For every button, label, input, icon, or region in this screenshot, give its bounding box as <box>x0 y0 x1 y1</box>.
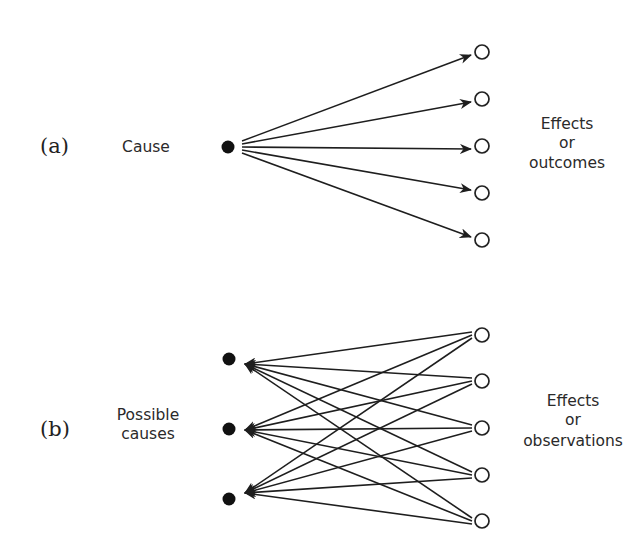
effect-circle <box>475 45 489 59</box>
effect-circle <box>475 186 489 200</box>
observations-label-line-1: Effects <box>547 392 600 410</box>
effect-nodes <box>475 45 489 247</box>
possible-cause-dot <box>223 423 236 436</box>
arrow-line <box>245 332 472 364</box>
panel-a: (a) Cause Effects or outcomes <box>40 45 605 247</box>
observation-circle <box>475 421 489 435</box>
observations-label-line-3: observations <box>523 432 623 450</box>
effect-cause-arrows <box>245 332 472 524</box>
arrow-line <box>242 55 471 141</box>
causal-diagram: (a) Cause Effects or outcomes (b) Possib… <box>0 0 644 547</box>
arrow-line <box>242 153 471 237</box>
effect-circle <box>475 139 489 153</box>
arrow-line <box>245 493 472 524</box>
arrow-line <box>245 384 472 493</box>
cause-effect-arrows <box>242 55 471 237</box>
observation-circle <box>475 328 489 342</box>
panel-b: (b) Possible causes Effects or observati… <box>40 328 623 528</box>
arrow-line <box>245 364 472 378</box>
cause-nodes <box>223 353 236 506</box>
possible-causes-label-line-2: causes <box>121 425 175 443</box>
effect-circle <box>475 92 489 106</box>
observation-nodes <box>475 328 489 528</box>
panel-a-label: (a) <box>40 134 69 158</box>
arrow-line <box>242 147 471 149</box>
arrow-line <box>245 478 472 493</box>
observation-circle <box>475 468 489 482</box>
arrow-line <box>245 430 472 475</box>
possible-cause-dot <box>223 493 236 506</box>
effects-label-line-3: outcomes <box>529 154 605 172</box>
arrow-line <box>242 150 471 190</box>
possible-cause-dot <box>223 353 236 366</box>
observation-circle <box>475 374 489 388</box>
arrow-line <box>245 430 472 521</box>
possible-causes-label-line-1: Possible <box>117 406 179 424</box>
arrow-line <box>245 364 472 472</box>
arrow-line <box>245 381 472 430</box>
cause-nodes <box>222 141 235 154</box>
arrow-line <box>242 102 471 144</box>
arrow-line <box>245 428 472 430</box>
panel-b-label: (b) <box>40 417 70 441</box>
effects-label-line-2: or <box>559 134 575 152</box>
effects-label-line-1: Effects <box>541 115 594 133</box>
effect-circle <box>475 233 489 247</box>
observations-label-line-2: or <box>565 411 581 429</box>
observation-circle <box>475 514 489 528</box>
cause-label: Cause <box>122 138 170 156</box>
cause-dot <box>222 141 235 154</box>
